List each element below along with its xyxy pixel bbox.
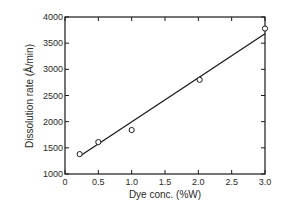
data-point-marker — [129, 127, 134, 132]
ticks: 00.51.01.52.02.53.0100015002000250030003… — [43, 12, 271, 187]
y-tick-label: 4000 — [43, 12, 63, 22]
y-tick-label: 3000 — [43, 64, 63, 74]
x-tick-label: 3.0 — [259, 177, 272, 187]
regression-line — [80, 34, 265, 156]
x-tick-label: 1.0 — [125, 177, 138, 187]
data-point-marker — [96, 139, 101, 144]
x-tick-label: 1.5 — [159, 177, 172, 187]
data-points — [77, 26, 268, 157]
chart-canvas: 00.51.01.52.02.53.0100015002000250030003… — [0, 0, 283, 208]
x-tick-label: 0 — [62, 177, 67, 187]
y-tick-label: 1000 — [43, 169, 63, 179]
y-tick-label: 2000 — [43, 117, 63, 127]
x-tick-label: 2.5 — [225, 177, 238, 187]
x-tick-label: 2.0 — [192, 177, 205, 187]
y-tick-label: 3500 — [43, 38, 63, 48]
fit-line — [80, 34, 265, 156]
data-point-marker — [77, 152, 82, 157]
x-axis-title: Dye conc. (%W) — [129, 189, 201, 200]
plot-frame — [65, 17, 265, 174]
data-point-marker — [262, 26, 267, 31]
y-tick-label: 2500 — [43, 91, 63, 101]
y-tick-label: 1500 — [43, 143, 63, 153]
y-axis-title: Dissolution rate (Å/min) — [23, 44, 35, 148]
x-tick-label: 0.5 — [92, 177, 105, 187]
axes — [65, 17, 265, 174]
data-point-marker — [197, 77, 202, 82]
